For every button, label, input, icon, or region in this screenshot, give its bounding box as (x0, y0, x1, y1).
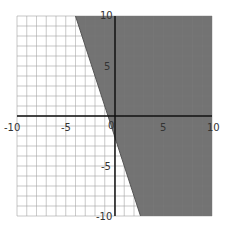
x-tick-label: -10 (4, 122, 20, 133)
x-tick-label: 10 (207, 122, 220, 133)
y-tick-label: 5 (104, 61, 110, 72)
x-tick-label: -5 (61, 122, 71, 133)
inequality-graph: -10 -5 0 5 10 10 5 -5 -10 (0, 0, 229, 230)
y-tick-label: 10 (100, 10, 113, 21)
origin-label: 0 (108, 120, 114, 131)
y-tick-label: -10 (96, 211, 112, 222)
y-tick-label: -5 (101, 161, 111, 172)
x-tick-label: 5 (160, 122, 166, 133)
